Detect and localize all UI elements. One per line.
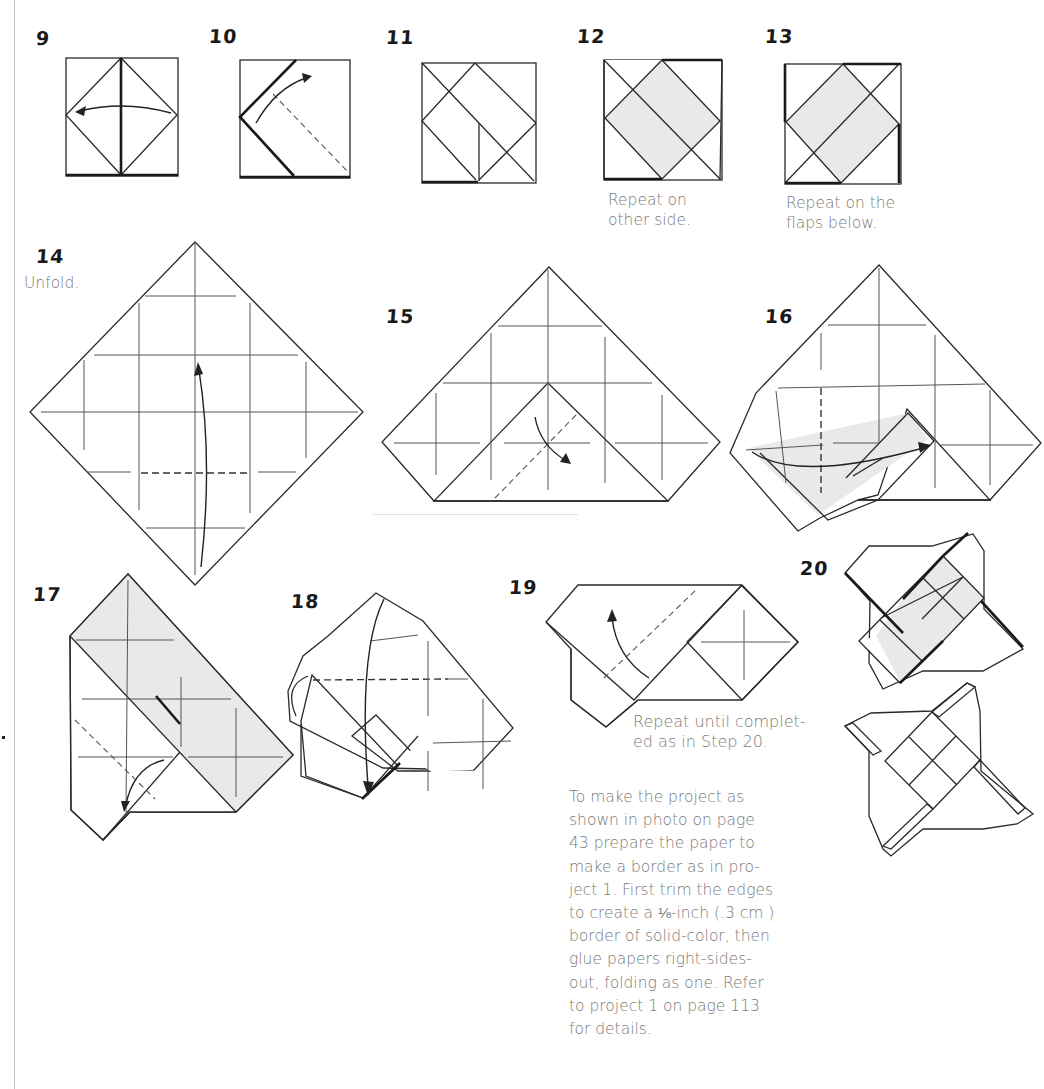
unfold-arrow-icon <box>199 370 207 567</box>
diagram-step-20-view-b <box>843 681 1033 851</box>
step-number-9: 9 <box>35 27 51 49</box>
scan-speck <box>2 736 5 739</box>
fold-arrow-icon <box>612 617 649 678</box>
page-margin-rule <box>14 0 15 1089</box>
diagram-step-10 <box>238 58 352 180</box>
project-note: To make the project as shown in photo on… <box>569 786 819 1041</box>
step-number-11: 11 <box>385 26 415 48</box>
step-number-13: 13 <box>764 25 794 47</box>
step-number-20: 20 <box>799 557 829 579</box>
scan-artifact-line <box>373 514 578 515</box>
caption-step-13: Repeat on the flaps below. <box>786 193 895 233</box>
step-number-19: 19 <box>508 576 538 598</box>
fold-arrow-icon <box>535 417 565 460</box>
caption-step-12: Repeat on other side. <box>608 190 691 230</box>
diagram-step-15 <box>380 265 725 505</box>
step-number-17: 17 <box>32 583 62 605</box>
step-number-12: 12 <box>576 25 606 47</box>
diagram-step-9 <box>64 56 180 178</box>
diagram-step-14 <box>28 240 368 590</box>
diagram-step-16 <box>728 263 1044 533</box>
diagram-step-11 <box>420 61 538 185</box>
diagram-step-17 <box>68 572 298 844</box>
diagram-step-12 <box>602 58 724 182</box>
step-number-10: 10 <box>208 25 238 47</box>
diagram-step-13 <box>783 62 903 186</box>
caption-step-19: Repeat until complet- ed as in Step 20. <box>633 712 806 752</box>
diagram-step-18 <box>288 591 518 836</box>
fold-arrow-icon <box>256 78 306 123</box>
diagram-step-20-view-a <box>843 531 1028 691</box>
fold-arrow-icon <box>80 106 171 113</box>
